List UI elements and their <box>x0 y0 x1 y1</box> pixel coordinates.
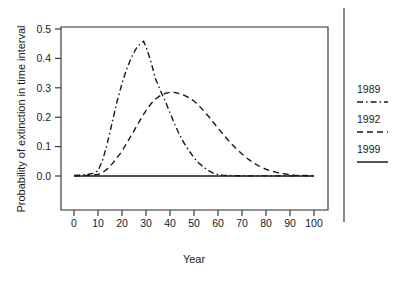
x-tick-label: 80 <box>260 217 272 229</box>
x-tick-label: 10 <box>92 217 104 229</box>
x-tick-label: 20 <box>116 217 128 229</box>
y-axis-title: Probability of extinction in time interv… <box>15 25 27 212</box>
legend-label-1992: 1992 <box>357 113 381 125</box>
y-tick-label: 0.5 <box>36 23 51 35</box>
x-tick-label: 0 <box>71 217 77 229</box>
y-tick-label: 0.4 <box>36 52 51 64</box>
chart-legend: 198919921999 <box>344 8 388 222</box>
x-tick-label: 40 <box>164 217 176 229</box>
x-tick-label: 70 <box>236 217 248 229</box>
chart-series-group <box>74 41 314 176</box>
y-axis-ticks: 0.00.10.20.30.40.5 <box>36 23 61 182</box>
plot-frame <box>61 27 328 210</box>
chart-figure: 0102030405060708090100 0.00.10.20.30.40.… <box>0 0 397 283</box>
y-tick-label: 0.1 <box>36 140 51 152</box>
legend-label-1999: 1999 <box>357 143 381 155</box>
extinction-probability-line-chart: 0102030405060708090100 0.00.10.20.30.40.… <box>0 0 397 283</box>
x-axis-ticks: 0102030405060708090100 <box>71 210 323 229</box>
x-axis-title: Year <box>183 253 206 265</box>
x-tick-label: 90 <box>284 217 296 229</box>
y-tick-label: 0.2 <box>36 111 51 123</box>
plot-border <box>61 27 328 210</box>
x-tick-label: 30 <box>140 217 152 229</box>
x-tick-label: 100 <box>305 217 323 229</box>
series-line-1989 <box>74 41 314 176</box>
x-tick-label: 60 <box>212 217 224 229</box>
y-tick-label: 0.0 <box>36 170 51 182</box>
y-tick-label: 0.3 <box>36 82 51 94</box>
legend-label-1989: 1989 <box>357 83 381 95</box>
x-tick-label: 50 <box>188 217 200 229</box>
